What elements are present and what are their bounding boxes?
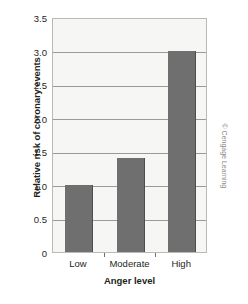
bar [117,158,145,252]
x-axis-tick-labels: LowModerateHigh [52,258,207,272]
bar-series [53,19,206,252]
plot-area [52,18,207,253]
y-tick-label: 1.0 [3,180,47,191]
x-axis-tick-marks [52,253,207,257]
x-tick-label: High [146,258,216,269]
y-tick-label: 0 [3,248,47,259]
bar [65,185,93,252]
x-axis-title: Anger level [52,275,207,286]
bar-chart-figure: Relative risk of coronary events 00.51.0… [0,0,248,304]
y-tick-label: 1.5 [3,147,47,158]
x-tick-mark [155,253,156,257]
bar [168,51,196,252]
y-tick-label: 0.5 [3,214,47,225]
y-tick-label: 2.5 [3,80,47,91]
y-tick-label: 3.0 [3,46,47,57]
y-tick-label: 3.5 [3,13,47,24]
x-tick-mark [104,253,105,257]
copyright-credit: © Cengage Learning [221,124,228,220]
y-tick-label: 2.0 [3,113,47,124]
